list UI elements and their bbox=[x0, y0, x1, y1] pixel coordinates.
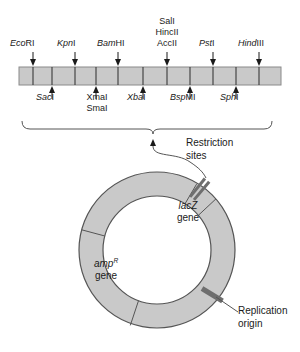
arrow-psti bbox=[210, 52, 216, 66]
arrow-xmai-smai bbox=[93, 86, 99, 99]
lacz-gene-label: lacZ gene bbox=[160, 200, 216, 224]
restriction-map-figure: EcoRI KpnI BamHI SalI HincII AccII PstI … bbox=[0, 0, 300, 352]
amp-gene-word: gene bbox=[76, 270, 136, 282]
replication-origin-line2: origin bbox=[238, 318, 287, 331]
arrow-saci bbox=[49, 86, 55, 99]
arrow-sphi bbox=[233, 86, 239, 99]
arrow-xbai bbox=[140, 86, 146, 99]
replication-origin-line1: Replication bbox=[238, 305, 287, 318]
restriction-sites-bracket bbox=[22, 121, 272, 134]
arrow-ecori bbox=[30, 52, 36, 66]
amp-gene-name-text: amp bbox=[94, 258, 113, 269]
arrow-bamhi bbox=[115, 52, 121, 66]
arrow-bspmi bbox=[187, 86, 193, 99]
lacz-gene-word: gene bbox=[160, 212, 216, 224]
plasmid-ring bbox=[79, 172, 238, 328]
polylinker-bar bbox=[19, 67, 281, 85]
restriction-sites-label: Restriction sites bbox=[186, 137, 233, 162]
bottom-site-arrows bbox=[49, 86, 239, 99]
amp-gene-superscript: R bbox=[113, 257, 118, 264]
amp-gene-name: ampR bbox=[76, 255, 136, 270]
restriction-sites-line1: Restriction bbox=[186, 137, 233, 150]
figure-graphics bbox=[0, 0, 300, 352]
amp-gene-label: ampR gene bbox=[76, 255, 136, 282]
lacz-gene-name: lacZ bbox=[160, 200, 216, 212]
top-site-arrows bbox=[30, 52, 262, 66]
arrow-sali-hincii-accii bbox=[164, 52, 170, 66]
arrow-kpni bbox=[72, 52, 78, 66]
restriction-sites-line2: sites bbox=[186, 150, 233, 163]
replication-origin-leader bbox=[216, 297, 238, 312]
arrow-hindiii bbox=[256, 52, 262, 66]
replication-origin-label: Replication origin bbox=[238, 305, 287, 330]
